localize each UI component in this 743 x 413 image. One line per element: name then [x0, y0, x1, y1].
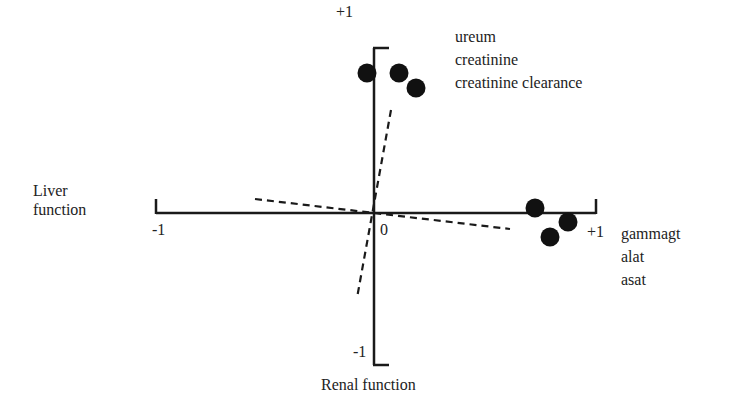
renal-cluster-points: [358, 64, 426, 98]
x-axis-origin-label: 0: [380, 220, 388, 239]
label-creatinine-clearance: creatinine clearance: [455, 71, 582, 94]
point-creatinine-clearance: [407, 79, 426, 98]
label-gammagt: gammagt: [621, 222, 681, 245]
x-axis-min-label: -1: [152, 220, 165, 239]
x-axis-title-line-2: function: [33, 200, 86, 219]
x-axis-max-label: +1: [587, 222, 604, 241]
renal-cluster-labels: ureum creatinine creatinine clearance: [455, 25, 582, 94]
point-asat: [541, 228, 560, 247]
dashed-reference-lines: [255, 110, 510, 298]
point-gammagt: [526, 199, 545, 218]
liver-cluster-points: [526, 199, 578, 247]
liver-cluster-labels: gammagt alat asat: [621, 222, 681, 291]
x-axis-title-line-1: Liver: [33, 181, 86, 200]
label-creatinine: creatinine: [455, 48, 582, 71]
y-axis-max-label: +1: [336, 2, 353, 21]
x-axis-title: Liver function: [33, 181, 86, 219]
point-creatinine: [390, 64, 409, 83]
point-ureum: [358, 64, 377, 83]
point-alat: [559, 213, 578, 232]
label-alat: alat: [621, 245, 681, 268]
y-axis-title: Renal function: [321, 375, 416, 394]
y-axis-min-label: -1: [353, 342, 366, 361]
label-asat: asat: [621, 268, 681, 291]
y-axis: [373, 48, 389, 365]
label-ureum: ureum: [455, 25, 582, 48]
loading-plot: [0, 0, 743, 413]
